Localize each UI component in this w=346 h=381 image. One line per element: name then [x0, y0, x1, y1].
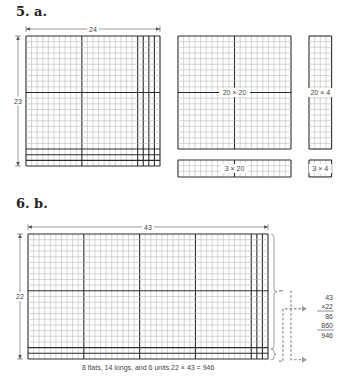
piece-label-3x4: 3 × 4 — [312, 165, 328, 172]
brace-2-rows — [271, 349, 276, 360]
width-arrow-6b-head-right — [264, 225, 268, 229]
base-ten-diagrams: 242320 × 2020 × 43 × 203 × 4432243×22868… — [0, 0, 346, 381]
arrowhead-partial1 — [302, 306, 307, 312]
piece-label-3x20: 3 × 20 — [225, 165, 245, 172]
height-arrow-5a-label: 23 — [14, 98, 22, 105]
dashed-path-lower — [279, 309, 303, 362]
width-arrow-5a-head-right — [156, 27, 160, 31]
mult-result: 946 — [321, 332, 333, 339]
mult-top: 43 — [325, 294, 333, 301]
height-arrow-6b-head-top — [18, 234, 22, 238]
caption-6b: 8 flats, 14 longs, and 6 units 22 × 43 =… — [82, 364, 214, 371]
height-arrow-5a-head-top — [16, 36, 20, 40]
height-arrow-6b-head-bottom — [18, 355, 22, 359]
width-arrow-5a-head-left — [26, 27, 30, 31]
width-arrow-5a-label: 24 — [89, 26, 97, 33]
mult-multiplier: ×22 — [321, 303, 333, 310]
width-arrow-6b-label: 43 — [144, 224, 152, 231]
piece-label-20x4: 20 × 4 — [310, 89, 330, 96]
mult-partial2: 860 — [321, 322, 333, 329]
height-arrow-6b-label: 22 — [16, 293, 24, 300]
arrowhead-partial2 — [302, 357, 307, 363]
brace-20-rows — [271, 234, 277, 350]
height-arrow-5a-head-bottom — [16, 162, 20, 166]
dashed-path-upper — [291, 291, 303, 360]
width-arrow-6b-head-left — [28, 225, 32, 229]
piece-label-20x20: 20 × 20 — [223, 89, 247, 96]
mult-partial1: 86 — [325, 313, 333, 320]
